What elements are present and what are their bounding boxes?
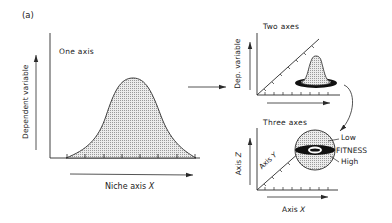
niche-diagram-graphics: [0, 0, 392, 223]
one-axis-x-label-var: X: [149, 182, 154, 191]
fitness-low-label: Low: [341, 134, 356, 142]
two-axes-panel: [250, 33, 340, 103]
two-axes-y-label: Dep. variable: [234, 39, 242, 89]
two-axes-title: Two axes: [263, 23, 299, 31]
one-axis-x-arrow: [70, 174, 193, 175]
one-axis-x-label-text: Niche axis: [105, 182, 149, 191]
three-axes-x-label-text: Axis: [282, 205, 300, 214]
fitness-title-label: FITNESS: [336, 147, 367, 155]
two-axes-bell-surface: [301, 56, 331, 85]
three-axes-title: Three axes: [263, 119, 307, 127]
three-axes-y-axis: [257, 152, 300, 190]
panel-label: (a): [22, 11, 34, 20]
one-axis-y-label: Dependent variable: [22, 62, 30, 142]
three-axes-x-label-var: X: [300, 205, 305, 214]
three-axes-z-label: Axis Z: [235, 147, 243, 181]
one-axis-x-label: Niche axis X: [105, 183, 154, 191]
fitness-high-label: High: [341, 158, 358, 166]
three-axes-z-label-text: Axis: [234, 157, 243, 175]
one-axis-title: One axis: [59, 48, 94, 56]
three-axes-x-label: Axis X: [282, 206, 305, 214]
curved-transition-arrow: [340, 85, 353, 131]
three-axes-z-label-var: Z: [234, 152, 243, 157]
one-axis-bell-curve: [66, 78, 196, 158]
